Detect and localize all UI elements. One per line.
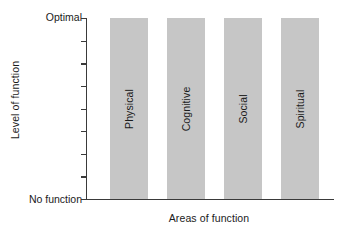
bar: Cognitive — [167, 18, 205, 199]
x-axis-title: Areas of function — [80, 212, 338, 224]
y-axis-tick-label-no-function: No function — [14, 194, 82, 205]
bars-group: PhysicalCognitiveSocialSpiritual — [86, 18, 334, 200]
bar-label: Cognitive — [180, 86, 192, 131]
bar-label: Physical — [123, 89, 135, 129]
bar-chart-figure: Level of function Optimal No function Ph… — [0, 0, 338, 232]
bar: Spiritual — [281, 18, 319, 199]
bar-label: Spiritual — [294, 89, 306, 128]
plot-area: PhysicalCognitiveSocialSpiritual — [86, 18, 334, 200]
y-axis-tick-label-optimal: Optimal — [14, 12, 82, 23]
y-axis-tick-label-group: Optimal No function — [10, 0, 82, 232]
bar: Physical — [110, 18, 148, 199]
bar-label: Social — [237, 94, 249, 123]
bar: Social — [224, 18, 262, 199]
